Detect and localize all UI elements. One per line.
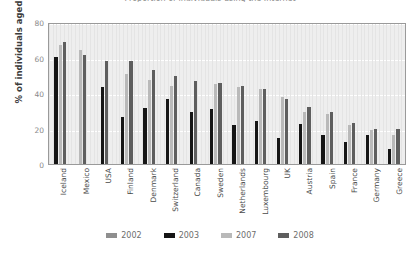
bar [148,80,151,164]
bar [166,99,169,164]
x-axis-labels: IcelandMexicoUSAFinlandDenmarkSwitzerlan… [48,166,406,226]
x-tick-label: USA [104,168,113,184]
bar-group [227,24,249,164]
bar [125,74,128,164]
bar [121,117,124,164]
bar [303,112,306,164]
bar [152,70,155,164]
bar [326,114,329,164]
x-tick-label: Germany [372,168,381,202]
bar [129,61,132,164]
x-tick-label: France [350,168,359,193]
bar-group [316,24,338,164]
bar [174,76,177,164]
bar [259,89,262,164]
x-tick-label: Canada [193,168,202,197]
y-tick-label: 80 [0,19,44,28]
bar [344,142,347,164]
x-tick-label: Sweden [216,168,225,198]
bar [232,125,235,164]
bar-group [160,24,182,164]
x-tick-label: Iceland [59,168,68,195]
bar-groups [49,24,405,164]
bar [210,109,213,164]
bar [194,81,197,164]
bar [218,83,221,164]
x-tick-label: Spain [328,168,337,189]
bar-group [116,24,138,164]
legend-item[interactable]: 2002 [106,231,141,240]
bar [79,50,82,164]
bar [396,129,399,164]
bar-group [183,24,205,164]
x-tick-label: Netherlands [238,168,247,214]
x-tick-label: Greece [395,168,404,195]
bar [299,124,302,164]
bar-group [71,24,93,164]
bar [348,125,351,164]
x-label-cell: Switzerland [160,166,182,226]
x-label-cell: Sweden [205,166,227,226]
chart-container: Proportion of individuals using the Inte… [0,0,420,253]
bar-group [205,24,227,164]
legend-item[interactable]: 2008 [278,231,313,240]
bar [54,57,57,164]
x-label-cell: Finland [115,166,137,226]
bar [143,108,146,164]
y-tick-label: 40 [0,90,44,99]
bar [307,107,310,164]
legend-swatch [278,233,289,238]
x-label-cell: Denmark [138,166,160,226]
bar [352,123,355,164]
bar [241,86,244,164]
legend-label: 2008 [293,231,313,240]
x-label-cell: Austria [294,166,316,226]
x-label-cell: Iceland [48,166,70,226]
bar [370,130,373,164]
bar-group [383,24,405,164]
y-tick-label: 60 [0,55,44,64]
bar [392,135,395,164]
x-tick-label: Mexico [82,168,91,194]
x-label-cell: Greece [384,166,406,226]
bar-group [272,24,294,164]
bar [330,112,333,164]
x-tick-label: Switzerland [171,168,180,212]
bar [277,138,280,164]
x-label-cell: Canada [182,166,204,226]
plot-area [48,23,406,165]
x-tick-label: Finland [126,168,135,195]
y-tick-label: 20 [0,126,44,135]
bar [190,112,193,164]
bar-group [94,24,116,164]
x-label-cell: Luxembourg [249,166,271,226]
bar [83,55,86,164]
x-tick-label: Luxembourg [261,168,270,215]
bar [170,86,173,164]
bar [374,129,377,165]
y-tick-label: 0 [0,161,44,170]
bar [59,45,62,164]
bar [101,87,104,164]
x-label-cell: UK [272,166,294,226]
bar-group [138,24,160,164]
bar [281,97,284,164]
x-label-cell: Spain [317,166,339,226]
bar [285,99,288,164]
bar [263,89,266,164]
bar-group [361,24,383,164]
bar [63,42,66,164]
legend-swatch [106,233,117,238]
legend-item[interactable]: 2007 [221,231,256,240]
bar-group [338,24,360,164]
legend-label: 2003 [179,231,199,240]
x-label-cell: France [339,166,361,226]
bar [388,149,391,164]
legend-swatch [164,233,175,238]
legend-item[interactable]: 2003 [164,231,199,240]
bar [321,135,324,164]
x-label-cell: USA [93,166,115,226]
x-tick-label: UK [283,168,292,178]
bar-group [49,24,71,164]
chart-legend: 2002200320072008 [0,231,420,240]
